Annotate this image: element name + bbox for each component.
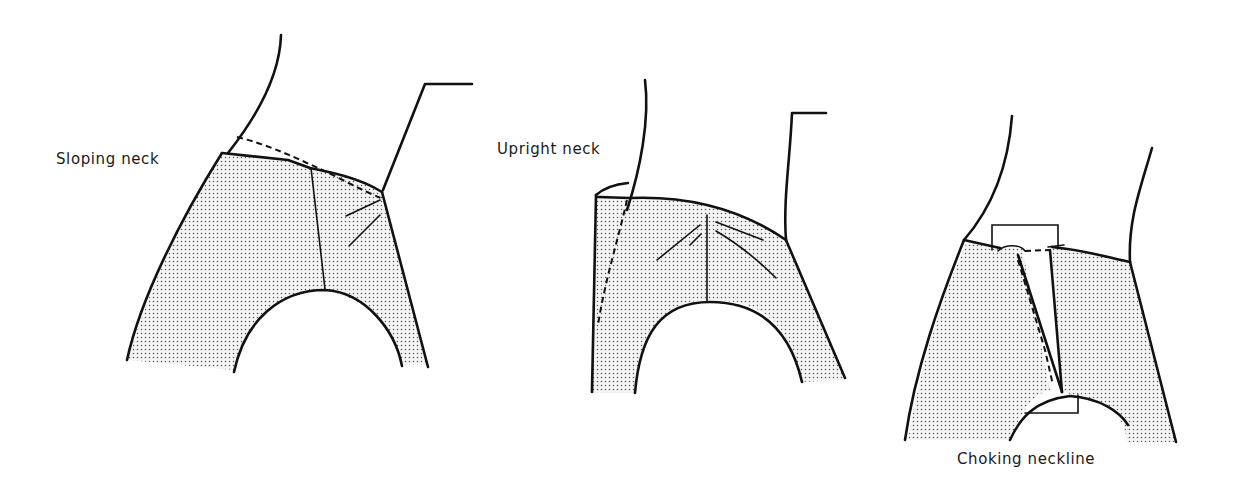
dashed-closure-line xyxy=(1025,250,1050,251)
label-choking-neckline: Choking neckline xyxy=(957,450,1095,468)
illustration-canvas: Sloping neck Upright neck Choking neckli… xyxy=(0,0,1236,483)
panel-sloping-neck xyxy=(127,35,472,372)
neck-curve-left xyxy=(627,80,646,210)
fabric-area xyxy=(128,153,428,370)
neck-curve-right xyxy=(383,84,472,190)
collar-edge xyxy=(596,183,628,195)
neck-curve-left xyxy=(228,35,281,153)
label-sloping-neck: Sloping neck xyxy=(56,150,159,168)
label-upright-neck: Upright neck xyxy=(497,140,600,158)
neck-curve-left xyxy=(964,116,1012,240)
fabric-area xyxy=(590,194,845,393)
neck-curve-right xyxy=(1130,148,1152,262)
button-tab-right xyxy=(1048,245,1064,247)
neck-curve-right xyxy=(785,113,826,240)
illustration-svg xyxy=(0,0,1236,483)
panel-choking-neckline xyxy=(905,116,1176,442)
panel-upright-neck xyxy=(590,80,845,393)
